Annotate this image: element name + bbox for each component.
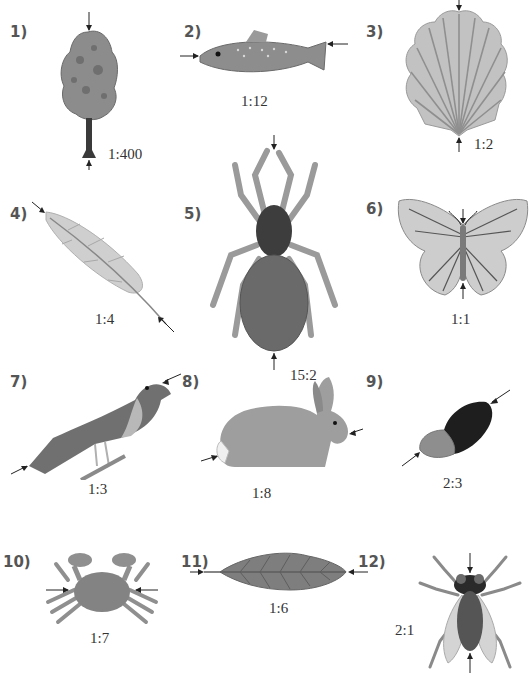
- scale-label-4: 1:4: [95, 311, 114, 328]
- fly-figure: [410, 545, 530, 675]
- scale-label-3: 1:2: [474, 136, 493, 153]
- scale-label-12: 2:1: [395, 622, 414, 639]
- spider-figure: [205, 135, 345, 370]
- shell-figure: [395, 0, 515, 160]
- butterfly-figure: [395, 195, 531, 305]
- acorn-figure: [400, 380, 515, 470]
- tree-figure: [50, 0, 130, 170]
- rabbit-figure: [195, 375, 365, 475]
- scale-label-8: 1:8: [252, 485, 271, 502]
- item-number-4: 4): [10, 205, 27, 223]
- scale-label-10: 1:7: [90, 630, 109, 647]
- crab-figure: [40, 550, 170, 630]
- scale-label-7: 1:3: [88, 481, 107, 498]
- scale-label-1: 1:400: [108, 146, 142, 163]
- scale-label-9: 2:3: [443, 475, 462, 492]
- scale-label-2: 1:12: [241, 93, 268, 110]
- item-number-3: 3): [366, 23, 383, 41]
- item-number-1: 1): [10, 23, 27, 41]
- scale-label-6: 1:1: [451, 311, 470, 328]
- item-number-10: 10): [3, 553, 31, 571]
- fish-figure: [178, 28, 358, 88]
- item-number-9: 9): [366, 373, 383, 391]
- item-number-12: 12): [358, 553, 386, 571]
- leaf-figure: [190, 550, 370, 595]
- item-number-6: 6): [366, 200, 383, 218]
- scale-label-11: 1:6: [269, 600, 288, 617]
- bird-figure: [5, 370, 185, 480]
- item-number-5: 5): [184, 205, 201, 223]
